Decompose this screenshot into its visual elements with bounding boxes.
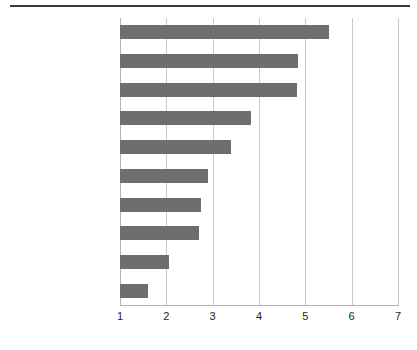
bar-row: Fachzeitschriften <box>0 162 417 191</box>
x-tick-label-2: 2 <box>151 310 181 322</box>
bar <box>120 226 199 240</box>
bar <box>120 25 329 39</box>
bar-row: Suchmaschinen <box>0 18 417 47</box>
bar-row: Social Media, Fachforen <box>0 248 417 277</box>
x-axis-tick-labels: 1234567 <box>0 310 417 328</box>
bar-row: Broschüren, Kataloge, Handelsmagazine <box>0 104 417 133</box>
x-tick-label-3: 3 <box>198 310 228 322</box>
x-tick-label-7: 7 <box>383 310 413 322</box>
x-tick-label-6: 6 <box>337 310 367 322</box>
x-axis-line <box>120 305 399 306</box>
x-tick-label-4: 4 <box>244 310 274 322</box>
bar <box>120 284 148 298</box>
x-tick-label-5: 5 <box>290 310 320 322</box>
bar <box>120 83 297 97</box>
bar-row: Unternehmenswebsite <box>0 75 417 104</box>
bar-row: Rundfunk- und Printwerbung <box>0 219 417 248</box>
bar-chart-figure: 1234567 SuchmaschinenPersönlicher Kontak… <box>0 0 417 350</box>
bottom-caption-sliver <box>8 341 409 350</box>
bar-row: Pop-Ups, Bannerwerbung <box>0 276 417 305</box>
bar-row: Persönlicher Kontakt (bspw. Vertrieb) <box>0 47 417 76</box>
bar-row: Events, Messen <box>0 133 417 162</box>
bar <box>120 255 169 269</box>
bar <box>120 169 208 183</box>
bar-row: Online-Fachpresse <box>0 190 417 219</box>
bar <box>120 198 201 212</box>
x-tick-label-1: 1 <box>105 310 135 322</box>
bar <box>120 111 251 125</box>
bar <box>120 140 231 154</box>
bar <box>120 54 298 68</box>
